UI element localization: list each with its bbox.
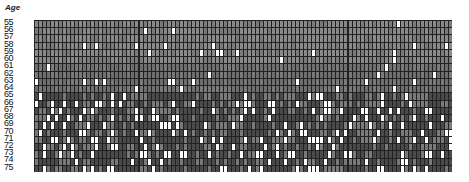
heatmap-cell (67, 115, 70, 121)
heatmap-cell (196, 43, 199, 49)
heatmap-cell (437, 35, 440, 41)
heatmap-cell (365, 151, 368, 157)
heatmap-cell (131, 101, 134, 107)
heatmap-cell (445, 130, 448, 136)
heatmap-cell (220, 122, 223, 128)
heatmap-cell (449, 115, 452, 121)
heatmap-cell (316, 57, 319, 63)
heatmap-cell (188, 137, 191, 143)
heatmap-cell (332, 122, 335, 128)
heatmap-cell (95, 93, 98, 99)
heatmap-cell (316, 137, 319, 143)
heatmap-cell (393, 50, 396, 56)
heatmap-cell (377, 50, 380, 56)
heatmap-cell (83, 101, 86, 107)
heatmap-cell (304, 57, 307, 63)
heatmap-cell (216, 159, 219, 165)
heatmap-cell (244, 21, 247, 27)
heatmap-cell (228, 86, 231, 92)
heatmap-cell (264, 86, 267, 92)
heatmap-cell (373, 101, 376, 107)
heatmap-cell (107, 93, 110, 99)
heatmap-cell (336, 64, 339, 70)
heatmap-cell (324, 151, 327, 157)
heatmap-cell (280, 72, 283, 78)
heatmap-cell (244, 43, 247, 49)
heatmap-cell (429, 28, 432, 34)
heatmap-cell (131, 166, 134, 172)
heatmap-cell (119, 115, 122, 121)
heatmap-cell (369, 28, 372, 34)
heatmap-cell (164, 151, 167, 157)
heatmap-cell (107, 137, 110, 143)
heatmap-cell (160, 79, 163, 85)
heatmap-cell (156, 50, 159, 56)
heatmap-cell (188, 28, 191, 34)
heatmap-cell (160, 43, 163, 49)
heatmap-cell (449, 21, 452, 27)
heatmap-cell (349, 28, 352, 34)
heatmap-cell (148, 43, 151, 49)
heatmap-cell (240, 130, 243, 136)
heatmap-cell (131, 159, 134, 165)
heatmap-cell (111, 93, 114, 99)
heatmap-cell (252, 101, 255, 107)
heatmap-cell (284, 43, 287, 49)
heatmap-cell (172, 79, 175, 85)
heatmap-cell (208, 57, 211, 63)
heatmap-cell (75, 151, 78, 157)
heatmap-cell (260, 79, 263, 85)
heatmap-cell (220, 93, 223, 99)
heatmap-cell (284, 28, 287, 34)
heatmap-cell (324, 43, 327, 49)
heatmap-cell (332, 166, 335, 172)
heatmap-cell (232, 151, 235, 157)
heatmap-cell (55, 122, 58, 128)
heatmap-cell (103, 43, 106, 49)
heatmap-cell (127, 86, 130, 92)
heatmap-cell (140, 57, 143, 63)
heatmap-cell (292, 108, 295, 114)
heatmap-cell (188, 64, 191, 70)
heatmap-cell (381, 166, 384, 172)
heatmap-cell (148, 144, 151, 150)
heatmap-cell (176, 79, 179, 85)
heatmap-cell (357, 130, 360, 136)
axis-title: Age (5, 3, 20, 12)
heatmap-cell (168, 64, 171, 70)
heatmap-cell (43, 93, 46, 99)
heatmap-cell (365, 43, 368, 49)
heatmap-cell (280, 57, 283, 63)
heatmap-cell (79, 64, 82, 70)
heatmap-cell (67, 64, 70, 70)
heatmap-cell (220, 101, 223, 107)
heatmap-cell (397, 115, 400, 121)
heatmap-cell (47, 159, 50, 165)
heatmap-cell (156, 64, 159, 70)
heatmap-cell (107, 35, 110, 41)
heatmap-cell (63, 115, 66, 121)
heatmap-cell (284, 144, 287, 150)
heatmap-cell (176, 86, 179, 92)
heatmap-cell (381, 122, 384, 128)
heatmap-cell (244, 50, 247, 56)
heatmap-cell (280, 115, 283, 121)
heatmap-cell (252, 137, 255, 143)
heatmap-cell (441, 122, 444, 128)
heatmap-cell (369, 35, 372, 41)
heatmap-cell (140, 101, 143, 107)
heatmap-cell (168, 50, 171, 56)
heatmap-cell (268, 35, 271, 41)
heatmap-cell (160, 28, 163, 34)
heatmap-cell (91, 101, 94, 107)
heatmap-cell (35, 159, 38, 165)
heatmap-cell (256, 130, 259, 136)
heatmap-cell (320, 159, 323, 165)
heatmap-cell (91, 108, 94, 114)
heatmap-cell (373, 144, 376, 150)
heatmap-cell (320, 21, 323, 27)
heatmap-cell (75, 43, 78, 49)
heatmap-cell (300, 21, 303, 27)
heatmap-cell (421, 166, 424, 172)
heatmap-cell (320, 28, 323, 34)
